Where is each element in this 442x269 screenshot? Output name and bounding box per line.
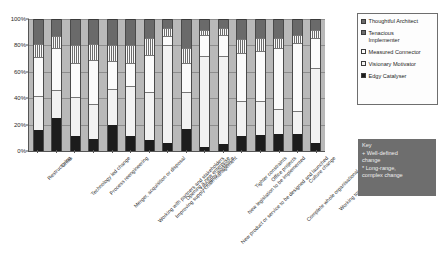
chart-screenshot: 0%20%40%60%80%100% RestructuringCrisisTe… bbox=[0, 0, 442, 269]
key-box: Key + Well-defined change * Long-range, … bbox=[358, 139, 436, 196]
legend-item: Edgy Catalyser bbox=[361, 73, 434, 80]
bar-segment bbox=[163, 19, 172, 28]
bar bbox=[218, 19, 229, 151]
bar-segment bbox=[237, 19, 246, 39]
y-axis-tick-mark bbox=[26, 151, 29, 152]
bar-segment bbox=[274, 109, 283, 134]
legend-label: Visionary Motivator bbox=[369, 61, 416, 68]
bar bbox=[51, 19, 62, 151]
bar-segment bbox=[219, 35, 228, 56]
bar-segment bbox=[108, 125, 117, 151]
legend-label: Measured Connector bbox=[369, 49, 421, 56]
y-axis-tick-mark bbox=[26, 124, 29, 125]
bar-segment bbox=[71, 97, 80, 137]
bar-segment bbox=[89, 19, 98, 44]
bar bbox=[162, 19, 173, 151]
y-axis-tick-label: 60% bbox=[14, 69, 26, 75]
bar-segment bbox=[274, 38, 283, 49]
x-axis-tick-mark bbox=[93, 150, 94, 153]
bar-segment bbox=[52, 36, 61, 48]
x-axis-tick-mark bbox=[149, 150, 150, 153]
bar-segment bbox=[108, 89, 117, 125]
bar-segment bbox=[145, 38, 154, 55]
bar-segment bbox=[200, 56, 209, 147]
bar-segment bbox=[256, 51, 265, 101]
bar-segment bbox=[71, 63, 80, 97]
bar-segment bbox=[311, 38, 320, 68]
bar-segment bbox=[126, 45, 135, 62]
y-axis-tick-label: 100% bbox=[11, 16, 26, 22]
y-axis-tick-mark bbox=[26, 98, 29, 99]
x-axis-tick-mark bbox=[316, 150, 317, 153]
bar-segment bbox=[182, 129, 191, 151]
bar-segment bbox=[145, 55, 154, 92]
legend-swatch bbox=[361, 49, 366, 54]
bar-segment bbox=[237, 39, 246, 54]
bar-segment bbox=[52, 118, 61, 151]
x-axis-tick-mark bbox=[37, 150, 38, 153]
bar-segment bbox=[274, 134, 283, 151]
bar bbox=[273, 19, 284, 151]
bar-segment bbox=[256, 19, 265, 37]
bar-segment bbox=[256, 38, 265, 51]
x-axis-tick-mark bbox=[167, 150, 168, 153]
x-axis-tick-mark bbox=[297, 150, 298, 153]
bar-segment bbox=[311, 30, 320, 38]
bar bbox=[70, 19, 81, 151]
bar-segment bbox=[182, 92, 191, 129]
legend-swatch bbox=[361, 73, 366, 78]
bar-segment bbox=[34, 130, 43, 151]
y-axis-tick-label: 20% bbox=[14, 122, 26, 128]
bar-segment bbox=[293, 43, 302, 112]
x-axis-tick-mark bbox=[186, 150, 187, 153]
bar-segment bbox=[126, 86, 135, 136]
bar-segment bbox=[293, 111, 302, 133]
y-axis-tick-mark bbox=[26, 19, 29, 20]
bar-segment bbox=[126, 136, 135, 151]
bar-segment bbox=[237, 101, 246, 137]
y-axis-tick-label: 40% bbox=[14, 95, 26, 101]
bar-segment bbox=[163, 45, 172, 143]
bar bbox=[107, 19, 118, 151]
x-axis-tick-mark bbox=[56, 150, 57, 153]
legend-swatch bbox=[361, 61, 366, 66]
bar-group bbox=[29, 19, 325, 151]
legend-swatch bbox=[361, 30, 366, 35]
bar-segment bbox=[274, 48, 283, 109]
bar bbox=[125, 19, 136, 151]
key-title: Key bbox=[362, 142, 432, 150]
bar-segment bbox=[237, 53, 246, 101]
bar-segment bbox=[52, 48, 61, 90]
legend-item: Measured Connector bbox=[361, 49, 434, 56]
bar-segment bbox=[34, 19, 43, 44]
legend-swatch bbox=[361, 19, 366, 24]
y-axis-tick-label: 0% bbox=[17, 148, 26, 154]
bar-segment bbox=[89, 104, 98, 140]
bar-segment bbox=[71, 19, 80, 45]
y-axis-tick-mark bbox=[26, 45, 29, 46]
x-axis-tick-label: Crisis bbox=[60, 155, 73, 168]
bar-segment bbox=[145, 19, 154, 37]
legend-label: Tenacious Implementer bbox=[369, 30, 400, 44]
bar-segment bbox=[126, 63, 135, 87]
bar-segment bbox=[256, 135, 265, 151]
bar-segment bbox=[89, 44, 98, 60]
bar-segment bbox=[293, 134, 302, 151]
legend-item: Visionary Motivator bbox=[361, 61, 434, 68]
bar bbox=[255, 19, 266, 151]
legend-label: Thoughtful Architect bbox=[369, 18, 418, 25]
plot-area: 0%20%40%60%80%100% bbox=[28, 19, 325, 152]
bar-segment bbox=[163, 36, 172, 45]
legend-item: Thoughtful Architect bbox=[361, 18, 434, 25]
x-axis-tick-mark bbox=[130, 150, 131, 153]
bar-segment bbox=[52, 90, 61, 118]
bar bbox=[181, 19, 192, 151]
bar-segment bbox=[34, 44, 43, 57]
x-axis-tick-mark bbox=[241, 150, 242, 153]
bar-segment bbox=[219, 19, 228, 28]
legend: Thoughtful ArchitectTenacious Implemente… bbox=[357, 13, 438, 105]
x-axis-tick-mark bbox=[260, 150, 261, 153]
bar-segment bbox=[34, 57, 43, 95]
bar-segment bbox=[34, 96, 43, 130]
bar-segment bbox=[108, 19, 117, 45]
